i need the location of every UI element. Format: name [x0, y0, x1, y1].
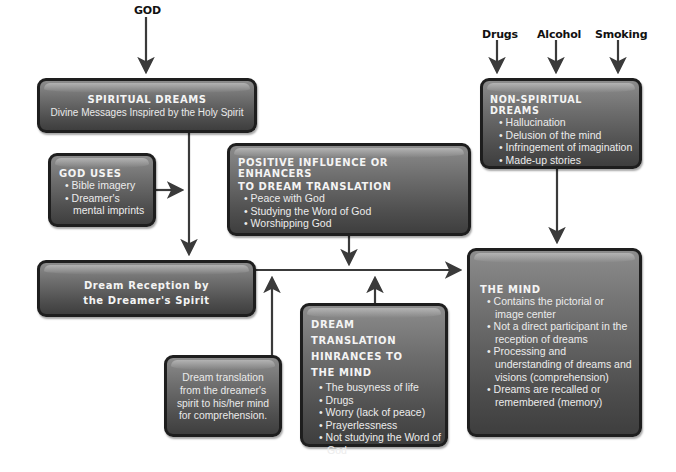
dream-reception-line1: Dream Reception by: [40, 278, 253, 293]
hindrances-box: DREAM TRANSLATION HINRANCES TO THE MIND …: [300, 303, 448, 447]
list-item: Delusion of the mind: [497, 129, 635, 142]
list-item: Processing and understanding of dreams a…: [485, 345, 635, 383]
list-item: Peace with God: [242, 192, 462, 205]
list-item: Dreamer's mental imprints: [63, 192, 147, 217]
list-item: Worry (lack of peace): [317, 406, 441, 419]
spiritual-dreams-title: SPIRITUAL DREAMS: [40, 94, 254, 105]
list-item: Prayerlessness: [317, 419, 441, 432]
positive-influence-box: POSITIVE INFLUENCE OR ENHANCERS TO DREAM…: [227, 143, 471, 236]
label-smoking: Smoking: [595, 28, 647, 41]
list-item: Not studying the Word of God: [317, 431, 441, 456]
dream-translation-text: Dream translation from the dreamer's spi…: [172, 372, 274, 423]
list-item: Infringement of imagination: [497, 141, 635, 154]
label-god: GOD: [134, 4, 161, 17]
dream-reception-box: Dream Reception by the Dreamer's Spirit: [37, 260, 256, 317]
label-alcohol: Alcohol: [537, 28, 581, 41]
list-item: Made-up stories: [497, 154, 635, 167]
list-item: Drugs: [317, 394, 441, 407]
hindrances-title-line3: THE MIND: [311, 365, 441, 381]
list-item: The busyness of life: [317, 381, 441, 394]
dream-reception-line2: the Dreamer's Spirit: [40, 293, 253, 308]
non-spiritual-title: NON-SPIRITUAL DREAMS: [490, 94, 635, 116]
dream-translation-box: Dream translation from the dreamer's spi…: [164, 355, 282, 437]
hindrances-list: The busyness of life Drugs Worry (lack o…: [317, 381, 441, 457]
positive-title-line1: POSITIVE INFLUENCE OR ENHANCERS: [238, 157, 462, 179]
non-spiritual-list: Hallucination Delusion of the mind Infri…: [497, 116, 635, 166]
the-mind-box: THE MIND Contains the pictorial or image…: [467, 248, 642, 437]
positive-title-line2: TO DREAM TRANSLATION: [238, 181, 462, 192]
god-uses-title: GOD USES: [59, 168, 147, 179]
the-mind-title: THE MIND: [480, 284, 635, 295]
hindrances-title-line2: HINRANCES TO: [311, 349, 441, 365]
list-item: Studying the Word of God: [242, 205, 462, 218]
spiritual-dreams-subtitle: Divine Messages Inspired by the Holy Spi…: [40, 107, 254, 118]
list-item: Not a direct participant in the receptio…: [485, 320, 635, 345]
god-uses-box: GOD USES Bible imagery Dreamer's mental …: [48, 153, 156, 227]
the-mind-list: Contains the pictorial or image center N…: [485, 295, 635, 408]
list-item: Hallucination: [497, 116, 635, 129]
hindrances-title-line1: DREAM TRANSLATION: [311, 317, 441, 349]
non-spiritual-dreams-box: NON-SPIRITUAL DREAMS Hallucination Delus…: [480, 78, 642, 169]
list-item: Dreams are recalled or remembered (memor…: [485, 383, 635, 408]
list-item: Contains the pictorial or image center: [485, 295, 635, 320]
list-item: Worshipping God: [242, 217, 462, 230]
spiritual-dreams-box: SPIRITUAL DREAMS Divine Messages Inspire…: [37, 78, 257, 133]
list-item: Bible imagery: [63, 179, 147, 192]
positive-list: Peace with God Studying the Word of God …: [242, 192, 462, 230]
label-drugs: Drugs: [482, 28, 518, 41]
god-uses-list: Bible imagery Dreamer's mental imprints: [63, 179, 147, 217]
